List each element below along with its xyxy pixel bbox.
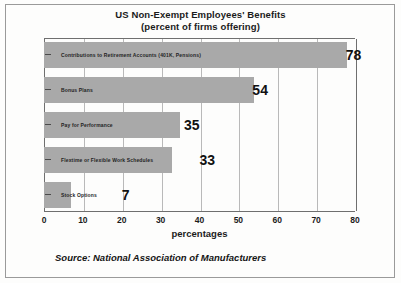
x-tick-label: 20 [117,215,126,225]
bar-row: Pay for Performance35 [44,112,355,138]
bar-value-label: 78 [346,42,362,68]
bar-row: Stock Options7 [44,182,355,208]
category-tick [45,159,51,160]
bar-value-label: 33 [200,147,216,173]
chart-subtitle: (percent of firms offering) [0,21,401,33]
bar-value-label: 7 [122,182,130,208]
source-note: Source: National Association of Manufact… [55,252,266,263]
bar-value-label: 35 [184,112,200,138]
x-tick-label: 80 [350,215,359,225]
x-tick-label: 0 [42,215,47,225]
bar-row: Bonus Plans54 [44,77,355,103]
bar-row: Contributions to Retirement Accounts (40… [44,42,355,68]
chart-title: US Non-Exempt Employees' Benefits [0,9,401,21]
x-tick-label: 50 [234,215,243,225]
chart-page: US Non-Exempt Employees' Benefits (perce… [0,0,401,283]
bar-category-label: Contributions to Retirement Accounts (40… [61,42,201,68]
category-tick [45,194,51,195]
bar-category-label: Pay for Performance [61,112,113,138]
category-tick [45,89,51,90]
bar-category-label: Bonus Plans [61,77,93,103]
bar-value-label: 54 [252,77,268,103]
x-tick-label: 40 [195,215,204,225]
bar-category-label: Stock Options [61,182,97,208]
chart-title-block: US Non-Exempt Employees' Benefits (perce… [0,9,401,32]
x-tick-label: 70 [311,215,320,225]
x-tick-label: 30 [156,215,165,225]
x-tick-label: 60 [273,215,282,225]
category-tick [45,54,51,55]
x-axis-title: percentages [44,228,355,239]
x-tick-label: 10 [78,215,87,225]
category-tick [45,124,51,125]
bars-layer: Contributions to Retirement Accounts (40… [44,38,355,212]
bar-category-label: Flextime or Flexible Work Schedules [61,147,153,173]
bar-row: Flextime or Flexible Work Schedules33 [44,147,355,173]
